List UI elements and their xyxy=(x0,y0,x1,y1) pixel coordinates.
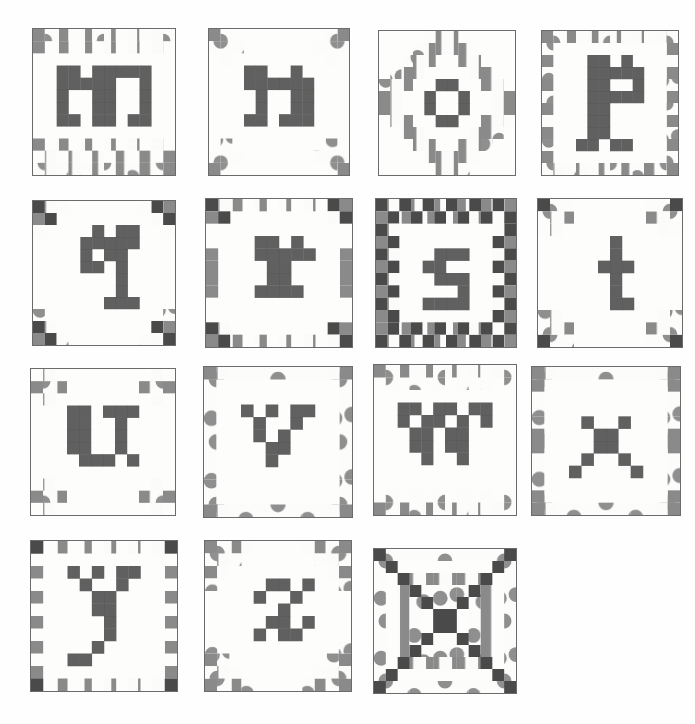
border-patch xyxy=(339,554,351,567)
block-t-canvas xyxy=(538,199,682,347)
border-patch xyxy=(493,322,505,334)
letter-patch xyxy=(587,127,599,139)
block-ornament-canvas xyxy=(374,549,516,693)
medallion-patch xyxy=(481,139,492,151)
letter-patch xyxy=(128,225,140,237)
border-patch xyxy=(434,335,446,347)
letter-patch xyxy=(291,236,303,249)
letter-patch xyxy=(254,629,266,642)
letter-patch xyxy=(469,403,481,416)
border-patch xyxy=(504,236,516,248)
letter-patch xyxy=(266,455,279,468)
border-patch xyxy=(398,645,410,657)
border-patch xyxy=(139,491,151,503)
letter-patch xyxy=(267,248,279,261)
medallion-patch xyxy=(413,67,424,79)
letter-patch xyxy=(57,102,69,114)
border-patch xyxy=(205,554,217,567)
border-patch xyxy=(670,322,682,334)
border-patch xyxy=(542,31,553,43)
border-patch xyxy=(340,417,352,430)
border-patch xyxy=(504,261,516,273)
border-patch xyxy=(446,335,458,347)
letter-patch xyxy=(127,454,139,466)
border-patch xyxy=(398,597,410,609)
border-patch xyxy=(388,298,400,310)
border-patch xyxy=(328,211,340,223)
border-patch xyxy=(633,31,644,43)
border-patch xyxy=(217,554,229,567)
border-patch xyxy=(326,163,338,175)
border-patch xyxy=(376,236,388,248)
letter-patch xyxy=(606,441,619,454)
border-patch xyxy=(532,478,544,490)
border-patch xyxy=(458,211,470,223)
border-patch xyxy=(242,679,254,692)
border-patch xyxy=(481,335,493,347)
medallion-patch xyxy=(447,151,458,163)
border-patch xyxy=(557,367,569,379)
border-patch xyxy=(327,554,339,567)
border-patch xyxy=(151,213,163,225)
letter-patch xyxy=(587,67,599,79)
border-patch xyxy=(376,335,388,347)
border-patch xyxy=(410,597,422,609)
letter-patch xyxy=(104,297,116,309)
border-patch xyxy=(303,199,315,211)
border-patch xyxy=(340,335,352,347)
border-patch xyxy=(33,201,45,213)
letter-patch xyxy=(92,66,104,78)
border-patch xyxy=(266,367,278,380)
letter-patch xyxy=(457,440,469,453)
medallion-patch xyxy=(436,43,447,55)
border-patch xyxy=(206,335,218,347)
letter-patch xyxy=(610,67,622,79)
letter-patch xyxy=(69,78,81,90)
letter-patch xyxy=(104,114,116,126)
letter-patch xyxy=(410,440,422,453)
border-patch xyxy=(457,573,469,585)
border-patch xyxy=(643,503,655,515)
border-patch xyxy=(433,503,445,516)
border-patch xyxy=(433,549,445,561)
border-patch xyxy=(532,441,544,453)
border-patch xyxy=(550,310,562,322)
border-patch xyxy=(315,554,327,567)
letter-patch xyxy=(421,453,433,466)
border-patch xyxy=(33,213,45,225)
letter-patch xyxy=(610,139,622,151)
letter-patch xyxy=(116,285,128,297)
medallion-patch xyxy=(379,79,390,91)
letter-patch xyxy=(599,55,611,67)
letter-patch xyxy=(618,416,631,429)
letter-patch xyxy=(92,90,104,102)
letter-patch xyxy=(267,273,279,286)
border-patch xyxy=(151,381,163,393)
letter-patch xyxy=(80,261,92,273)
letter-patch xyxy=(266,405,279,418)
border-patch xyxy=(569,367,581,379)
letter-patch xyxy=(278,616,290,629)
border-patch xyxy=(410,609,422,621)
border-patch xyxy=(433,597,445,609)
border-patch xyxy=(550,322,562,334)
letter-patch xyxy=(267,285,279,298)
border-patch xyxy=(340,248,352,260)
border-patch xyxy=(151,393,163,405)
border-patch xyxy=(278,505,290,518)
border-patch xyxy=(469,199,481,211)
border-patch xyxy=(376,310,388,322)
border-patch xyxy=(445,681,457,693)
border-patch xyxy=(340,480,352,493)
letter-patch xyxy=(598,261,610,274)
border-patch xyxy=(565,163,576,175)
border-patch xyxy=(542,115,553,127)
border-patch xyxy=(327,679,339,692)
border-patch xyxy=(492,365,504,378)
letter-patch xyxy=(140,78,152,90)
letter-patch xyxy=(290,629,302,642)
border-patch xyxy=(45,163,57,175)
border-patch xyxy=(339,579,351,592)
border-patch xyxy=(151,29,163,41)
border-patch xyxy=(668,453,680,465)
